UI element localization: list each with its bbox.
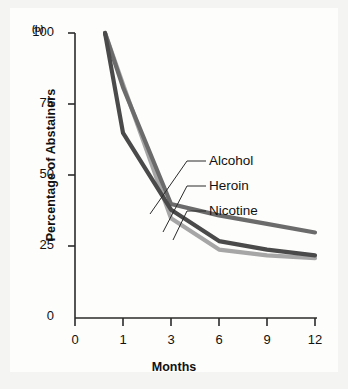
plot-area bbox=[10, 8, 338, 372]
series-label-alcohol: Alcohol bbox=[209, 153, 253, 168]
axes bbox=[68, 33, 317, 326]
series-heroin bbox=[105, 33, 315, 255]
series-label-heroin: Heroin bbox=[209, 178, 249, 193]
figure-panel: (b) Percentage of Abstainers Months 100 … bbox=[0, 0, 348, 389]
series-nicotine bbox=[105, 33, 315, 258]
chart-plate: (b) Percentage of Abstainers Months 100 … bbox=[10, 8, 338, 372]
series-label-nicotine: Nicotine bbox=[209, 203, 258, 218]
